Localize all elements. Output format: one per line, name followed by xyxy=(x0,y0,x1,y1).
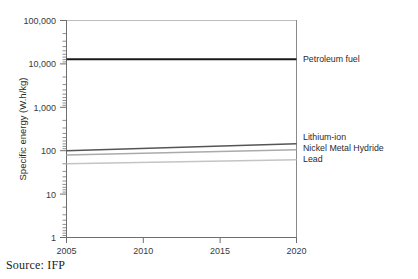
y-tick-label-1: 1 xyxy=(51,233,56,243)
x-tick-label-2010: 2010 xyxy=(133,246,153,256)
y-tick-label-1000: 1,000 xyxy=(33,103,56,113)
series-line-lead xyxy=(67,160,297,164)
x-tick-label-2015: 2015 xyxy=(210,246,230,256)
y-tick-label-10000: 10,000 xyxy=(28,59,56,69)
y-tick-label-100000: 100,000 xyxy=(23,16,56,26)
y-axis-title: Specific energy (W.h/kg) xyxy=(17,78,28,181)
x-tick-label-2020: 2020 xyxy=(286,246,306,256)
y-tick-label-10: 10 xyxy=(46,190,56,200)
x-axis-ticks xyxy=(67,238,297,244)
series-label-lithium-ion: Lithium-ion xyxy=(303,132,346,142)
series-label-nickel-metal-hydride: Nickel Metal Hydride xyxy=(303,143,384,153)
specific-energy-line-chart: 100,000 10,000 1,000 100 10 1 2005 2010 … xyxy=(0,0,418,279)
source-note: Source: IFP xyxy=(6,258,65,273)
x-tick-label-2005: 2005 xyxy=(56,246,76,256)
series-line-nickel-metal-hydride xyxy=(67,150,297,155)
y-tick-label-100: 100 xyxy=(41,146,56,156)
series-line-lithium-ion xyxy=(67,144,297,151)
series-label-petroleum-fuel: Petroleum fuel xyxy=(303,54,360,64)
y-axis-major-ticks xyxy=(60,21,66,238)
chart-figure: 100,000 10,000 1,000 100 10 1 2005 2010 … xyxy=(0,0,418,279)
series-label-lead: Lead xyxy=(303,154,323,164)
